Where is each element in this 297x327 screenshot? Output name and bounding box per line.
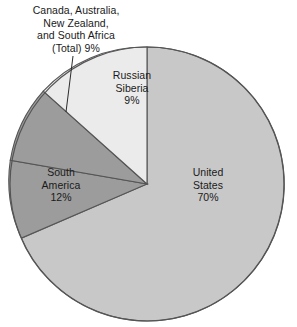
slice-label-russian-siberia: Russian Siberia 9% [96, 69, 168, 107]
pie-chart: Canada, Australia, New Zealand, and Sout… [0, 0, 297, 327]
slice-label-canada-australia-nz-south-africa: Canada, Australia, New Zealand, and Sout… [0, 4, 152, 54]
slice-label-south-america: South America 12% [18, 166, 104, 204]
slice-label-united-states: United States 70% [168, 166, 248, 204]
